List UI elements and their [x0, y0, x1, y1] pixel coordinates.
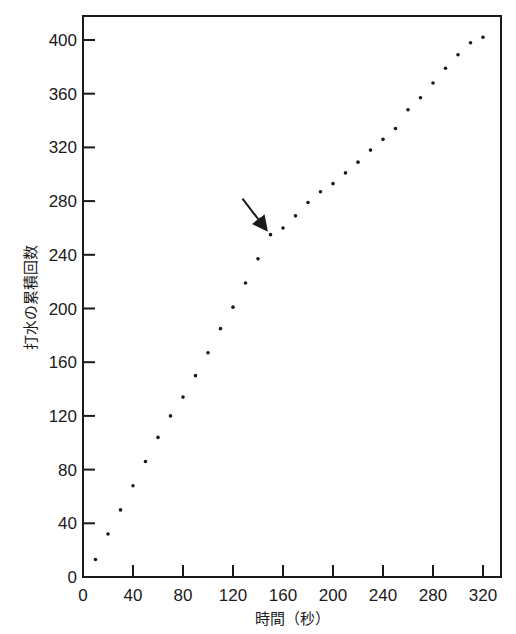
data-point	[419, 96, 423, 100]
x-tick-label: 0	[78, 586, 87, 605]
x-tick-label: 240	[369, 586, 397, 605]
data-point	[156, 436, 160, 440]
x-tick-label: 120	[219, 586, 247, 605]
y-tick-label: 320	[49, 138, 77, 157]
x-tick-label: 40	[124, 586, 143, 605]
data-point	[281, 226, 285, 230]
data-point	[369, 148, 373, 152]
x-axis-title: 時間（秒）	[255, 610, 330, 628]
y-tick-label: 400	[49, 31, 77, 50]
data-point	[244, 281, 248, 285]
data-point	[131, 484, 135, 488]
y-tick-label: 360	[49, 85, 77, 104]
data-point	[356, 160, 360, 164]
data-point	[181, 395, 185, 399]
plot-frame	[83, 16, 501, 577]
data-point	[119, 508, 123, 512]
data-point	[481, 36, 485, 40]
data-point	[294, 214, 298, 218]
y-tick-label: 160	[49, 353, 77, 372]
data-point	[144, 460, 148, 464]
data-point	[331, 182, 335, 186]
x-tick-label: 80	[174, 586, 193, 605]
y-axis-title: 打水の累積回数	[22, 245, 40, 350]
data-point	[431, 81, 435, 85]
y-tick-label: 200	[49, 300, 77, 319]
x-tick-label: 320	[469, 586, 497, 605]
y-tick-label: 80	[58, 461, 77, 480]
data-point	[194, 374, 198, 378]
y-tick-label: 120	[49, 407, 77, 426]
x-axis: 04080120160200240280320	[78, 565, 497, 605]
y-tick-label: 280	[49, 192, 77, 211]
data-point	[219, 327, 223, 331]
data-point	[256, 257, 260, 261]
data-point	[406, 108, 410, 112]
data-point	[456, 53, 460, 57]
scatter-chart: 04080120160200240280320360400 0408012016…	[0, 0, 516, 634]
y-axis: 04080120160200240280320360400	[49, 31, 95, 587]
y-tick-label: 240	[49, 246, 77, 265]
data-point	[169, 414, 173, 418]
x-tick-label: 200	[319, 586, 347, 605]
x-tick-label: 160	[269, 586, 297, 605]
data-point	[106, 532, 110, 536]
data-point	[231, 305, 235, 309]
data-point	[344, 171, 348, 175]
data-point	[206, 351, 210, 355]
arrow-icon	[243, 199, 266, 229]
data-point	[269, 233, 273, 237]
data-point	[94, 558, 98, 562]
data-point	[444, 66, 448, 70]
data-point	[306, 201, 310, 205]
y-tick-label: 0	[68, 568, 77, 587]
data-point	[381, 138, 385, 142]
data-points	[94, 36, 485, 562]
y-tick-label: 40	[58, 514, 77, 533]
data-point	[394, 127, 398, 131]
annotations	[243, 199, 266, 229]
data-point	[469, 41, 473, 45]
x-tick-label: 280	[419, 586, 447, 605]
data-point	[319, 190, 323, 194]
